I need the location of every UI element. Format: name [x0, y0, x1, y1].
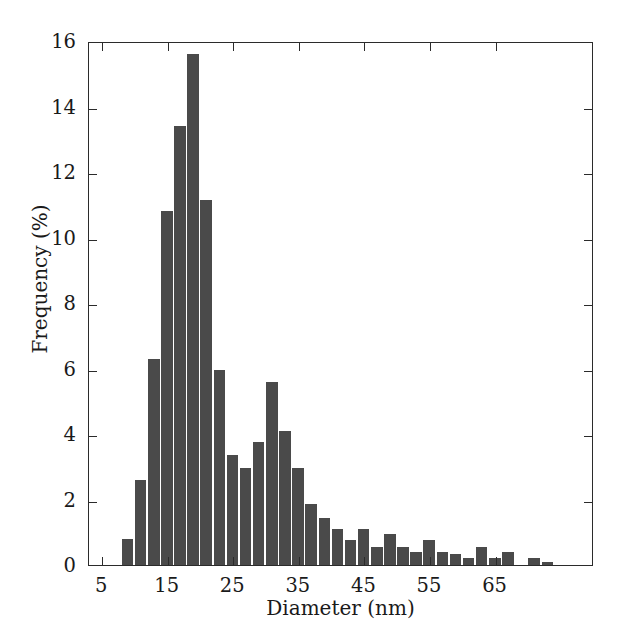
x-axis-tick-top [102, 43, 103, 51]
y-axis-tick [89, 436, 97, 437]
y-axis-tick-right [584, 436, 592, 437]
histogram-bar [122, 539, 134, 565]
histogram-bar [292, 468, 304, 565]
y-axis-tick-right [584, 109, 592, 110]
x-axis-tick-label: 35 [268, 576, 328, 596]
histogram-bar [397, 547, 409, 565]
y-axis-tick-label: 0 [22, 556, 76, 576]
x-axis-title: Diameter (nm) [88, 597, 593, 619]
histogram-figure: 02468101214165152535455565 Diameter (nm)… [0, 0, 624, 638]
x-axis-tick-label: 65 [465, 576, 525, 596]
histogram-bar [187, 54, 199, 565]
x-axis-tick-label: 45 [333, 576, 393, 596]
histogram-bar [542, 562, 554, 565]
x-axis-tick-label: 5 [71, 576, 131, 596]
y-axis-tick-right [584, 371, 592, 372]
plot-area [88, 42, 593, 566]
x-axis-tick [299, 557, 300, 565]
x-axis-tick-top [496, 43, 497, 51]
histogram-bar [161, 211, 173, 565]
x-axis-tick [233, 557, 234, 565]
histogram-bar [240, 468, 252, 565]
histogram-bar [476, 547, 488, 565]
y-axis-tick [89, 305, 97, 306]
x-axis-tick [364, 557, 365, 565]
bars-layer [89, 43, 592, 565]
histogram-bar [437, 552, 449, 565]
y-axis-title: Frequency (%) [29, 139, 51, 419]
x-axis-tick-label: 15 [137, 576, 197, 596]
x-axis-tick-top [364, 43, 365, 51]
histogram-bar [371, 547, 383, 565]
y-axis-tick-label: 2 [22, 491, 76, 511]
x-axis-tick [168, 557, 169, 565]
x-axis-tick-top [299, 43, 300, 51]
y-axis-tick [89, 240, 97, 241]
y-axis-tick-label: 14 [22, 98, 76, 118]
x-axis-tick [430, 557, 431, 565]
histogram-bar [200, 200, 212, 565]
y-axis-tick [89, 371, 97, 372]
x-axis-tick-top [430, 43, 431, 51]
histogram-bar [450, 554, 462, 565]
y-axis-tick-right [584, 174, 592, 175]
histogram-bar [384, 534, 396, 565]
y-axis-tick-right [584, 240, 592, 241]
y-axis-tick [89, 502, 97, 503]
y-axis-tick-label: 16 [22, 32, 76, 52]
x-axis-tick-top [233, 43, 234, 51]
y-axis-tick-label: 4 [22, 425, 76, 445]
histogram-bar [227, 455, 239, 565]
histogram-bar [214, 370, 226, 565]
y-axis-tick-right [584, 305, 592, 306]
histogram-bar [410, 552, 422, 565]
histogram-bar [279, 431, 291, 565]
histogram-bar [266, 382, 278, 565]
histogram-bar [174, 126, 186, 565]
x-axis-tick-label: 25 [202, 576, 262, 596]
histogram-bar [253, 442, 265, 565]
histogram-bar [305, 504, 317, 565]
y-axis-tick [89, 174, 97, 175]
x-axis-tick-label: 55 [399, 576, 459, 596]
y-axis-tick-right [584, 502, 592, 503]
histogram-bar [148, 359, 160, 565]
x-axis-tick [102, 557, 103, 565]
histogram-bar [135, 480, 147, 565]
histogram-bar [332, 529, 344, 565]
x-axis-tick-top [168, 43, 169, 51]
histogram-bar [502, 552, 514, 565]
histogram-bar [319, 518, 331, 565]
y-axis-tick [89, 109, 97, 110]
histogram-bar [345, 540, 357, 565]
x-axis-tick [496, 557, 497, 565]
histogram-bar [463, 558, 475, 565]
histogram-bar [528, 558, 540, 565]
